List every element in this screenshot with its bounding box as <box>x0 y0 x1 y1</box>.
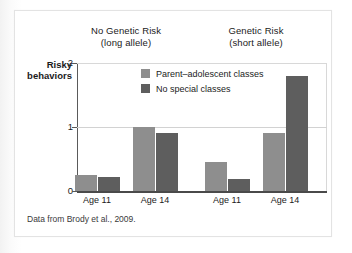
bar <box>205 162 227 191</box>
figure-card: No Genetic Risk (long allele) Genetic Ri… <box>14 10 332 237</box>
x-axis-label: Age 11 <box>201 195 253 205</box>
legend-item: No special classes <box>141 82 311 95</box>
x-axis-label: Age 14 <box>129 195 181 205</box>
legend-swatch-icon <box>141 69 150 78</box>
bar <box>228 179 250 191</box>
bar <box>75 175 97 191</box>
legend-label: Parent–adolescent classes <box>156 69 264 79</box>
legend-item: Parent–adolescent classes <box>141 67 311 80</box>
legend: Parent–adolescent classesNo special clas… <box>141 67 311 97</box>
legend-label: No special classes <box>156 84 231 94</box>
x-axis-label: Age 11 <box>71 195 123 205</box>
x-axis-label: Age 14 <box>259 195 311 205</box>
bar <box>98 177 120 191</box>
plot-area: Risky behaviors 2 1 0 Age 11Age 14Age 11… <box>15 11 333 238</box>
bar <box>133 127 155 191</box>
figure-root: No Genetic Risk (long allele) Genetic Ri… <box>0 0 352 253</box>
source-note: Data from Brody et al., 2009. <box>27 214 136 224</box>
bar <box>156 133 178 191</box>
bar <box>263 133 285 191</box>
legend-swatch-icon <box>141 84 150 93</box>
